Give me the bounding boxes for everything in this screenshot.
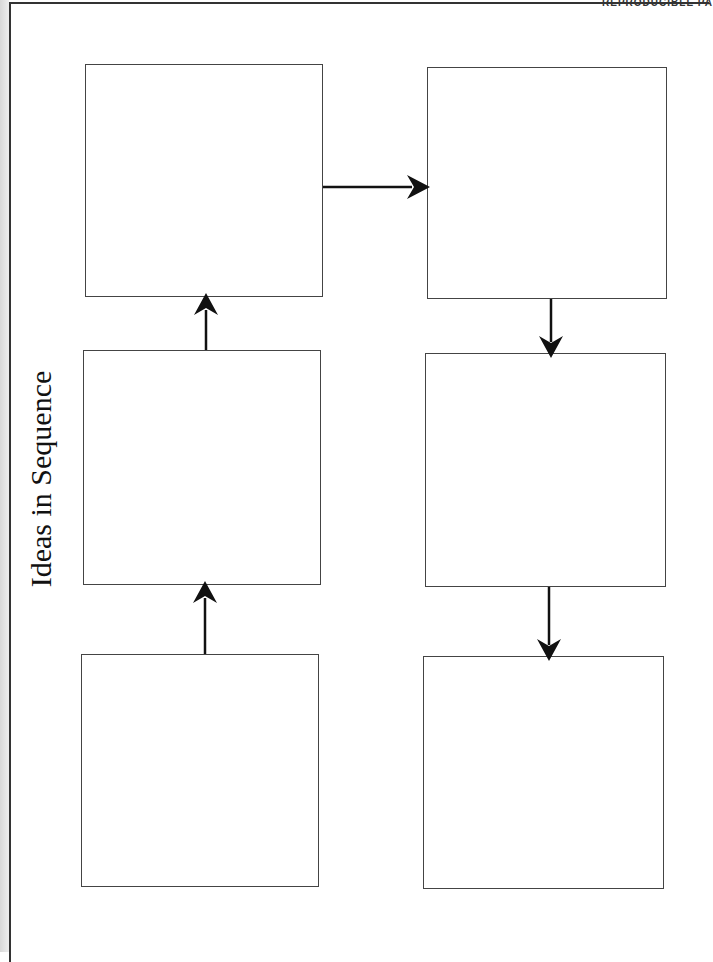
arrow-down-icon — [537, 587, 561, 661]
arrow-down-icon — [539, 299, 563, 358]
arrow-right-icon — [323, 175, 430, 199]
arrow-up-icon — [193, 581, 217, 654]
arrow-up-icon — [194, 293, 218, 350]
